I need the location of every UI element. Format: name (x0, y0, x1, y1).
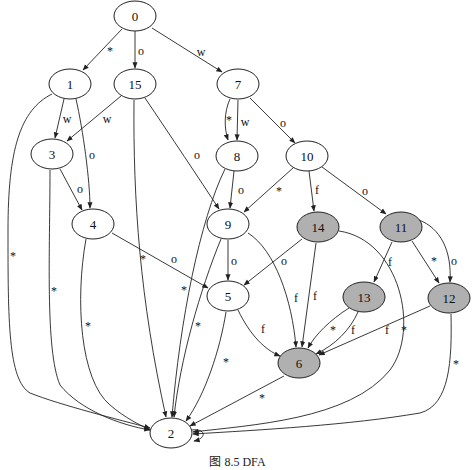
edge-13-6-star (308, 308, 349, 348)
node-label: 13 (358, 290, 371, 305)
node-label: 7 (235, 77, 242, 92)
state-node-15: 15 (114, 69, 156, 99)
state-node-5: 5 (207, 281, 249, 311)
edge-5-6 (238, 310, 280, 356)
edge-label: f (385, 323, 389, 337)
edge-label: * (401, 323, 407, 337)
state-node-0: 0 (114, 1, 156, 31)
edge-label: * (276, 184, 282, 198)
edge-label: f (261, 322, 265, 336)
edge-label: o (138, 44, 144, 58)
edge-6-2 (190, 376, 284, 426)
edge-3-2 (49, 170, 150, 430)
edge-label: * (330, 323, 336, 337)
edge-label: * (140, 252, 146, 266)
edge-label: f (351, 323, 355, 337)
node-label: 3 (49, 147, 56, 162)
edge-label: o (171, 252, 177, 266)
state-node-10: 10 (286, 141, 328, 171)
edge-label: * (181, 283, 187, 297)
node-label: 11 (395, 220, 408, 235)
node-label: 12 (443, 291, 456, 306)
edge-15-2 (134, 100, 166, 417)
node-label: 14 (312, 220, 326, 235)
edge-label: w (241, 115, 250, 129)
edge-label: f (388, 255, 392, 269)
edge-5-2 (186, 312, 226, 421)
edge-label: * (453, 357, 459, 371)
edge-8-9 (230, 171, 234, 208)
edge-label: o (77, 182, 83, 196)
node-label: 0 (132, 9, 139, 24)
edge-label: * (223, 355, 229, 369)
node-label: 1 (67, 77, 74, 92)
state-node-3: 3 (31, 139, 73, 169)
edge-14-5 (244, 239, 302, 285)
node-label: 15 (129, 77, 142, 92)
state-node-7: 7 (217, 69, 259, 99)
node-label: 6 (296, 356, 303, 371)
node-label: 4 (90, 217, 97, 232)
edge-4-2 (81, 239, 150, 430)
state-node-6: 6 (278, 348, 320, 378)
node-label: 10 (301, 149, 314, 164)
edge-label: w (197, 45, 206, 59)
node-label: 9 (225, 217, 232, 232)
edge-label: w (63, 112, 72, 126)
edge-label: * (10, 249, 16, 263)
state-node-13: 13 (343, 282, 385, 312)
edge-label: * (226, 113, 232, 127)
edge-label: o (280, 116, 286, 130)
edge-label: o (451, 254, 457, 268)
edge-4-5 (112, 233, 208, 288)
edge-label: o (238, 183, 244, 197)
edge-label: f (294, 291, 298, 305)
edge-label: f (313, 289, 317, 303)
state-node-2: 2 (150, 418, 192, 448)
edge-15-3 (67, 96, 121, 141)
edge-12-2 (193, 314, 451, 434)
edge-10-11 (322, 167, 386, 214)
node-label: 2 (168, 426, 175, 441)
state-node-14: 14 (297, 212, 339, 242)
state-node-12: 12 (428, 283, 470, 313)
edge-1-2 (8, 94, 150, 428)
state-node-1: 1 (49, 69, 91, 99)
node-label: 8 (234, 149, 241, 164)
edge-label: o (281, 254, 287, 268)
edge-label: o (89, 148, 95, 162)
edge-15-9 (145, 98, 219, 209)
edge-label: * (195, 319, 201, 333)
edge-label: * (259, 391, 265, 405)
state-node-4: 4 (72, 209, 114, 239)
edge-label: o (194, 148, 200, 162)
edge-label: w (103, 112, 112, 126)
node-label: 5 (225, 289, 232, 304)
figure-caption: 图 8.5 DFA (0, 452, 475, 470)
edge-7-10 (250, 98, 295, 143)
edge-label: f (315, 183, 319, 197)
state-node-11: 11 (380, 212, 422, 242)
nodes: 0 1 15 7 3 8 10 4 9 14 11 5 13 12 6 2 (31, 1, 470, 448)
edge-label: o (231, 254, 237, 268)
state-node-9: 9 (207, 209, 249, 239)
edge-9-6 (248, 233, 296, 347)
edge-label: * (107, 44, 113, 58)
edge-label: o (362, 184, 368, 198)
edge-10-14 (309, 171, 314, 211)
edge-0-7 (152, 28, 222, 72)
edge-10-9 (244, 168, 293, 212)
state-node-8: 8 (216, 141, 258, 171)
edge-label: * (431, 254, 437, 268)
edge-label: * (51, 284, 57, 298)
edge-label: * (85, 319, 91, 333)
edge-0-1 (83, 29, 122, 70)
edge-11-12-o (419, 220, 450, 282)
edge-7-8-w (237, 100, 238, 140)
